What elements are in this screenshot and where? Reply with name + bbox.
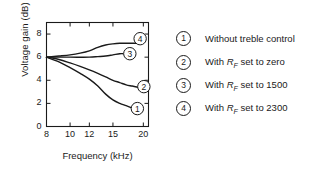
y-axis-label: Voltage gain (dB) (19, 0, 30, 100)
inline-marker-4: 4 (134, 32, 146, 44)
y-tick-label: 4 (28, 74, 42, 84)
x-axis-label: Frequency (kHz) (46, 150, 149, 161)
legend-label-3: With RF set to 1500 (205, 79, 287, 92)
resistor-subscript: F (234, 107, 238, 114)
inline-marker-3: 3 (124, 48, 136, 60)
legend-marker-3: 3 (176, 78, 191, 93)
svg-text:1: 1 (135, 104, 140, 114)
legend-item-1: 1Without treble control (176, 31, 295, 45)
legend-marker-2: 2 (176, 55, 191, 70)
legend-marker-4: 4 (176, 101, 191, 116)
svg-text:4: 4 (138, 34, 143, 44)
resistor-symbol: R (227, 79, 234, 90)
x-tick-label: 20 (135, 129, 151, 139)
x-tick-label: 12 (81, 129, 97, 139)
legend-item-2: 2With RF set to zero (176, 55, 285, 69)
inline-marker-2: 2 (138, 80, 150, 92)
legend-item-4: 4With RF set to 2300 (176, 101, 287, 115)
resistor-symbol: R (227, 102, 234, 113)
svg-text:3: 3 (127, 49, 132, 59)
resistor-symbol: R (227, 56, 234, 67)
x-tick-label: 10 (62, 129, 78, 139)
y-tick-label: 8 (28, 28, 42, 38)
legend-label-2: With RF set to zero (205, 56, 285, 69)
x-tick-label: 8 (39, 129, 55, 139)
legend-item-3: 3With RF set to 1500 (176, 78, 287, 92)
inline-marker-1: 1 (131, 102, 143, 114)
y-tick-label: 2 (28, 97, 42, 107)
chart-figure-root: 4321 Voltage gain (dB) Frequency (kHz) 0… (0, 0, 324, 172)
resistor-subscript: F (234, 61, 238, 68)
legend-marker-1: 1 (176, 31, 191, 46)
legend-label-4: With RF set to 2300 (205, 102, 287, 115)
svg-text:2: 2 (142, 82, 147, 92)
resistor-subscript: F (234, 84, 238, 91)
x-tick-label: 15 (105, 129, 121, 139)
legend-label-1: Without treble control (205, 33, 295, 44)
y-tick-label: 6 (28, 51, 42, 61)
plot-figure: 4321 Voltage gain (dB) Frequency (kHz) 0… (0, 0, 170, 172)
